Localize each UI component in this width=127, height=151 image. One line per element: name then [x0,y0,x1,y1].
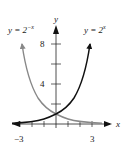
x-axis-arrow-icon [104,121,112,127]
y-tick-label-4: 4 [40,79,45,89]
svg-text:y = 2x: y = 2x [83,24,106,35]
y-axis-arrow-icon [53,25,59,34]
svg-text:y = 2−x: y = 2−x [7,24,34,35]
x-tick-label-3: 3 [90,134,95,144]
curve-2-neg-x [22,44,102,123]
x-axis-label: x [115,119,120,129]
label-2-neg-x: y = 2−x [7,24,34,35]
curve-left-arrow-icon [12,121,20,127]
x-tick-label-neg3: −3 [14,134,24,144]
label-2-x: y = 2x [83,24,106,35]
exponential-chart: −3 3 x 8 4 y y = 2−x y = 2x [0,0,127,151]
y-axis-label: y [53,14,58,24]
y-tick-label-8: 8 [40,39,45,49]
